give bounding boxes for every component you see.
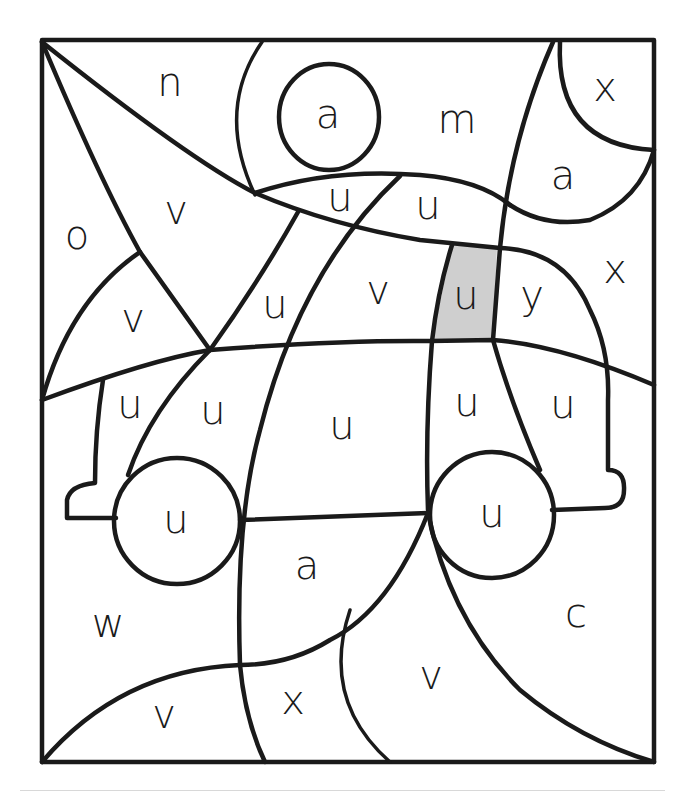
region-label: u (479, 490, 504, 536)
region-label: v (164, 187, 188, 233)
region-label: u (200, 387, 225, 433)
region-label: u (454, 379, 479, 425)
region-label-filled: u (453, 272, 478, 318)
region-label: c (565, 590, 587, 636)
region-label: y (520, 272, 544, 318)
region-label: a (295, 542, 320, 588)
region-label: m (438, 96, 477, 142)
region-label: x (603, 246, 627, 292)
region-label: v (152, 691, 176, 737)
region-label: o (65, 212, 89, 258)
region-label: v (121, 295, 145, 341)
region-label: u (329, 402, 354, 448)
coloring-page: n a m x a u u v o x v u y u v u u u u u … (0, 0, 685, 802)
region-label: w (92, 600, 125, 646)
region-label: u (327, 174, 352, 220)
region-label: n (157, 59, 182, 105)
letter-labels: n a m x a u u v o x v u y u v u u u u u … (65, 59, 627, 737)
region-label: x (593, 64, 617, 110)
region-label: a (551, 152, 576, 198)
region-label: a (316, 91, 341, 137)
region-label: u (262, 281, 287, 327)
region-label: u (163, 496, 188, 542)
region-label: v (419, 652, 443, 698)
region-label: u (415, 182, 440, 228)
region-label: u (550, 381, 575, 427)
page-divider (20, 790, 665, 791)
region-label: u (117, 381, 142, 427)
region-label: v (366, 267, 390, 313)
region-label: x (281, 677, 305, 723)
